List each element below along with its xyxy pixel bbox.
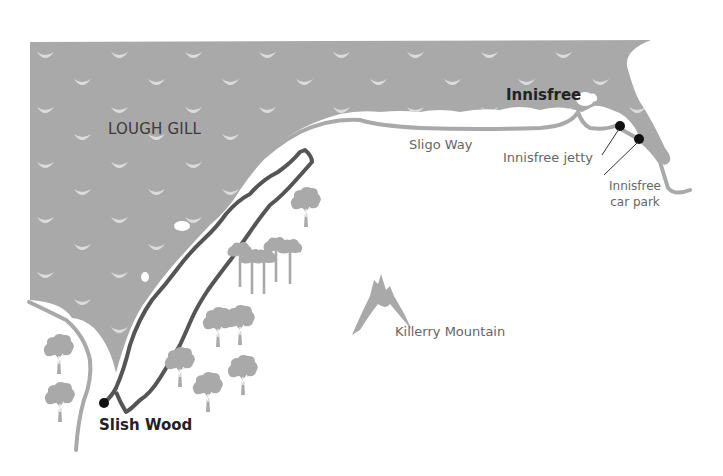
sligo-way-label: Sligo Way bbox=[409, 138, 473, 151]
tree-icon bbox=[45, 382, 75, 422]
car-park-line-2: car park bbox=[599, 194, 671, 210]
tree-icon bbox=[165, 347, 195, 387]
tree-icon bbox=[228, 355, 258, 395]
tree-icon bbox=[44, 334, 74, 374]
west-path bbox=[29, 302, 90, 450]
tree-icon bbox=[225, 305, 255, 345]
slish-wood-marker[interactable] bbox=[99, 398, 109, 408]
innisfree-car-park-label[interactable]: Innisfree car park bbox=[599, 178, 671, 210]
tree-icon bbox=[193, 372, 223, 412]
car-park-line-1: Innisfree bbox=[599, 178, 671, 194]
map-canvas bbox=[0, 0, 723, 476]
innisfree-label[interactable]: Innisfree bbox=[506, 88, 581, 103]
tree-icon bbox=[291, 187, 321, 227]
killerry-mountain-label[interactable]: Killerry Mountain bbox=[395, 325, 505, 338]
tree-icon bbox=[278, 239, 303, 284]
tree-icon bbox=[228, 242, 253, 287]
slish-wood-label[interactable]: Slish Wood bbox=[99, 418, 192, 433]
lough-gill-label: LOUGH GILL bbox=[108, 122, 201, 137]
innisfree-jetty-label[interactable]: Innisfree jetty bbox=[503, 151, 593, 164]
innisfree-car-park-marker[interactable] bbox=[604, 134, 644, 175]
tree-icon bbox=[252, 249, 277, 294]
